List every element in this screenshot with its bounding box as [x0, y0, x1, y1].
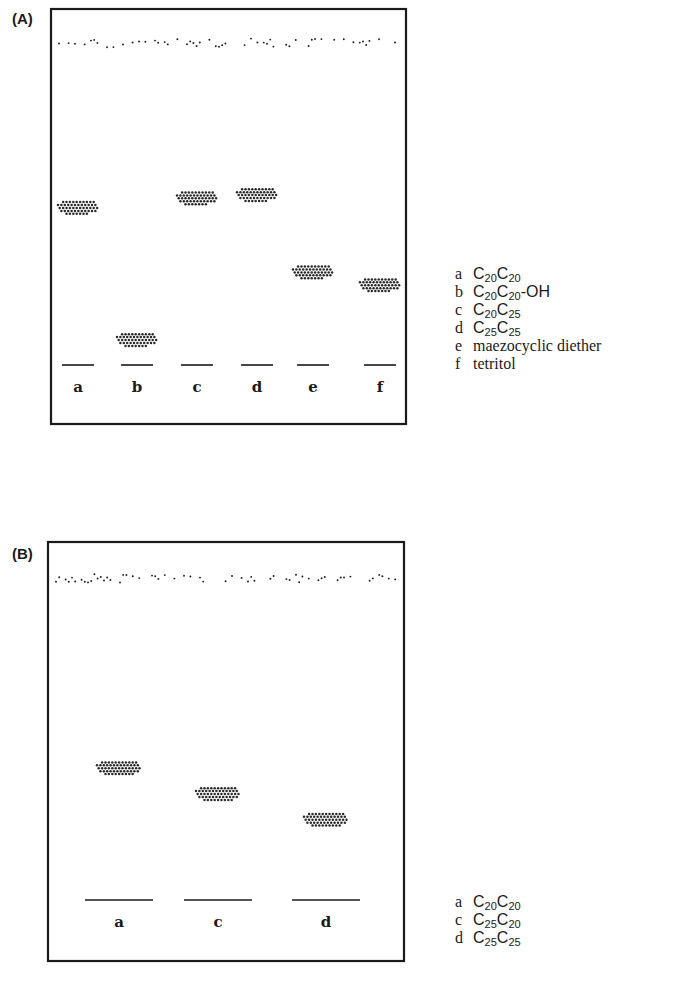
lane-label-d: d: [252, 378, 263, 396]
spot-lane-a: [57, 201, 99, 215]
lane-label-d: d: [321, 913, 332, 931]
legend-item-e: emaezocyclic diether: [455, 337, 601, 355]
lane-label-b: b: [132, 378, 143, 396]
legend-compound: C20C20: [473, 265, 521, 282]
legend-key: d: [455, 319, 469, 337]
spot-lane-c: [176, 191, 218, 205]
lane-label-c: c: [213, 913, 222, 931]
legend-key: f: [455, 355, 469, 373]
legend-item-c: cC25C20: [455, 911, 521, 929]
lane-label-a: a: [73, 378, 83, 396]
legend-key: a: [455, 893, 469, 911]
legend-key: c: [455, 301, 469, 319]
lane-label-e: e: [308, 378, 318, 396]
legend-compound: maezocyclic diether: [473, 337, 601, 354]
legend-key: d: [455, 929, 469, 947]
plate-border-b: [48, 542, 404, 961]
spot-lane-d: [236, 188, 278, 202]
spot-lane-c: [195, 787, 240, 801]
legend-compound: C20C20-OH: [473, 283, 550, 300]
legend-item-a: aC20C20: [455, 265, 601, 283]
legend-compound: tetritol: [473, 355, 516, 372]
legend-item-f: ftetritol: [455, 355, 601, 373]
spot-lane-e: [292, 265, 334, 279]
lane-label-c: c: [192, 378, 201, 396]
spot-lane-b: [116, 333, 158, 347]
legend-a: aC20C20bC20C20-OHcC20C25dC25C25emaezocyc…: [455, 265, 601, 373]
legend-key: c: [455, 911, 469, 929]
tlc-plate-a: abcdefacd: [0, 0, 699, 987]
legend-key: e: [455, 337, 469, 355]
legend-compound: C20C20: [473, 893, 521, 910]
plate-border-a: [51, 9, 406, 424]
legend-key: a: [455, 265, 469, 283]
legend-compound: C25C20: [473, 911, 521, 928]
legend-compound: C25C25: [473, 319, 521, 336]
legend-compound: C25C25: [473, 929, 521, 946]
lane-label-a: a: [114, 913, 124, 931]
legend-b: aC20C20cC25C20dC25C25: [455, 893, 521, 947]
legend-item-d: dC25C25: [455, 319, 601, 337]
spot-lane-f: [359, 278, 401, 292]
legend-item-d: dC25C25: [455, 929, 521, 947]
legend-item-a: aC20C20: [455, 893, 521, 911]
legend-item-b: bC20C20-OH: [455, 283, 601, 301]
legend-compound: C20C25: [473, 301, 521, 318]
spot-lane-a: [96, 761, 141, 775]
legend-key: b: [455, 283, 469, 301]
solvent-front-b: [55, 573, 396, 583]
spot-lane-d: [303, 813, 348, 827]
solvent-front-a: [58, 38, 396, 49]
legend-item-c: cC20C25: [455, 301, 601, 319]
lane-label-f: f: [377, 378, 385, 396]
